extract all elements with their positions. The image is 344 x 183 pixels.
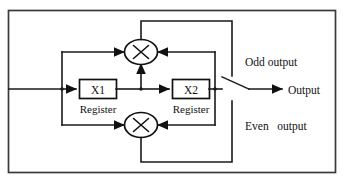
- register1-label: X1: [91, 84, 105, 96]
- register2-label: X2: [184, 84, 198, 96]
- block-diagram-figure: X1 X2 Register Register Odd output Even …: [0, 0, 344, 183]
- output-selector-switch-blade[interactable]: [222, 77, 249, 89]
- even-output-label: Even output: [245, 120, 307, 133]
- register1-caption: Register: [80, 103, 117, 115]
- odd-output-label: Odd output: [245, 56, 298, 69]
- output-label: Output: [288, 84, 321, 97]
- diagram-canvas: X1 X2 Register Register Odd output Even …: [0, 0, 344, 183]
- register2-caption: Register: [173, 103, 210, 115]
